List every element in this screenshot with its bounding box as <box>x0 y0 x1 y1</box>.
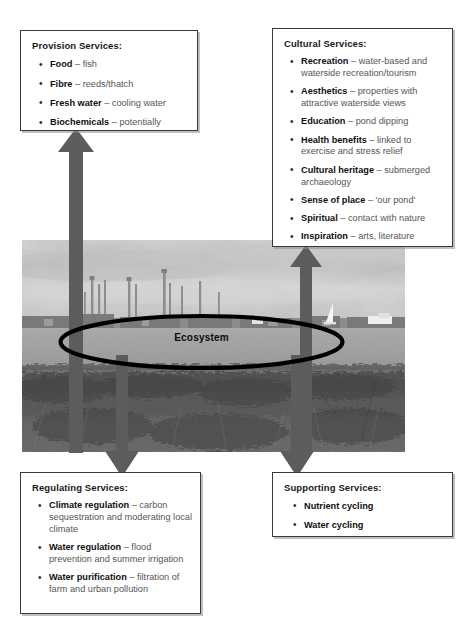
item-term: Recreation <box>301 56 349 66</box>
arrow-down-regulating <box>105 355 139 477</box>
list-item: Water purification – filtration of farm … <box>32 572 192 596</box>
item-term: Spiritual <box>301 213 338 223</box>
item-term: Education <box>301 116 345 126</box>
item-term: Nutrient cycling <box>304 501 373 511</box>
regulating-services-box: Regulating Services: Climate regulation … <box>20 472 201 614</box>
list-item: Nutrient cycling <box>284 501 444 513</box>
item-term: Water cycling <box>304 520 363 530</box>
item-desc: – 'our pond' <box>365 195 415 205</box>
list-item: Inspiration – arts, literature <box>284 231 444 243</box>
cultural-services-list: Recreation – water-based and waterside r… <box>284 56 444 243</box>
item-term: Fibre <box>50 79 72 89</box>
item-term: Aesthetics <box>301 86 347 96</box>
list-item: Food – fish <box>32 59 187 71</box>
regulating-services-title: Regulating Services: <box>32 482 192 494</box>
list-item: Fresh water – cooling water <box>32 98 187 110</box>
item-term: Water regulation <box>49 542 121 552</box>
list-item: Education – pond dipping <box>284 116 444 128</box>
list-item: Climate regulation – carbon sequestratio… <box>32 500 192 535</box>
list-item: Water cycling <box>284 520 444 532</box>
item-desc: – reeds/thatch <box>72 79 133 89</box>
list-item: Water regulation – flood prevention and … <box>32 542 192 566</box>
cultural-services-box: Cultural Services: Recreation – water-ba… <box>272 28 453 247</box>
supporting-services-list: Nutrient cycling Water cycling <box>284 501 444 532</box>
item-term: Food <box>50 59 72 69</box>
item-term: Water purification <box>49 572 127 582</box>
item-desc: – pond dipping <box>345 116 408 126</box>
item-term: Fresh water <box>50 98 102 108</box>
item-term: Sense of place <box>301 195 365 205</box>
provision-services-list: Food – fish Fibre – reeds/thatch Fresh w… <box>32 59 187 129</box>
item-term: Biochemicals <box>50 117 109 127</box>
item-term: Cultural heritage <box>301 165 374 175</box>
item-desc: – contact with nature <box>338 213 425 223</box>
list-item: Biochemicals – potentially <box>32 117 187 129</box>
supporting-services-title: Supporting Services: <box>284 482 444 494</box>
item-term: Inspiration <box>301 231 348 241</box>
item-desc: – fish <box>72 59 97 69</box>
item-term: Health benefits <box>301 135 367 145</box>
ecosystem-label: Ecosystem <box>57 332 346 343</box>
regulating-services-list: Climate regulation – carbon sequestratio… <box>32 500 192 595</box>
list-item: Recreation – water-based and waterside r… <box>284 56 444 80</box>
list-item: Sense of place – 'our pond' <box>284 195 444 207</box>
provision-services-title: Provision Services: <box>32 40 187 52</box>
item-desc: – potentially <box>109 117 161 127</box>
arrow-down-supporting <box>280 355 314 477</box>
arrow-up-provision <box>58 128 94 453</box>
supporting-services-box: Supporting Services: Nutrient cycling Wa… <box>272 472 453 537</box>
cultural-services-title: Cultural Services: <box>284 38 444 50</box>
list-item: Cultural heritage – submerged archaeolog… <box>284 165 444 189</box>
list-item: Health benefits – linked to exercise and… <box>284 135 444 159</box>
list-item: Fibre – reeds/thatch <box>32 79 187 91</box>
item-desc: – arts, literature <box>348 231 414 241</box>
list-item: Spiritual – contact with nature <box>284 213 444 225</box>
provision-services-box: Provision Services: Food – fish Fibre – … <box>20 30 198 131</box>
item-desc: – cooling water <box>102 98 166 108</box>
item-term: Climate regulation <box>49 500 129 510</box>
list-item: Aesthetics – properties with attractive … <box>284 86 444 110</box>
